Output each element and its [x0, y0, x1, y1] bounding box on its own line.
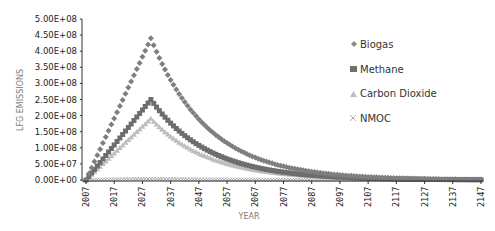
- diamond-marker: [156, 55, 162, 61]
- diamond-marker: [111, 115, 117, 121]
- lfg-emissions-chart: 0.00E+005.00E+071.00E+081.50E+082.00E+08…: [0, 0, 495, 231]
- diamond-marker: [123, 91, 129, 97]
- x-tick-label: 2027: [137, 187, 147, 207]
- diamond-marker: [108, 122, 114, 128]
- diamond-marker: [114, 109, 120, 115]
- diamond-marker: [137, 60, 143, 66]
- diamond-marker: [142, 48, 148, 54]
- legend-item-biogas: Biogas: [351, 39, 393, 50]
- diamond-marker: [151, 42, 157, 48]
- diamond-marker: [173, 86, 179, 92]
- x-tick-label: 2127: [420, 187, 430, 207]
- diamond-marker: [139, 54, 145, 60]
- diamond-marker: [148, 35, 154, 41]
- diamond-marker: [100, 140, 106, 146]
- x-axis-ticks: 2007201720272037204720572067207720872097…: [81, 181, 486, 207]
- diamond-marker: [134, 66, 140, 72]
- diamond-marker-icon: [351, 41, 357, 47]
- x-tick-label: 2047: [194, 187, 204, 207]
- legend-label: Methane: [360, 64, 404, 75]
- diamond-marker: [94, 152, 100, 158]
- diamond-marker: [168, 77, 174, 83]
- y-tick-label: 2.00E+08: [35, 111, 77, 121]
- y-tick-label: 4.50E+08: [35, 30, 77, 40]
- x-tick-label: 2017: [109, 187, 119, 207]
- y-tick-label: 0.00E+00: [35, 175, 77, 185]
- legend-item-nmoc: NMOC: [350, 113, 391, 124]
- y-axis-title: LFG EMISSIONS: [16, 69, 25, 131]
- x-marker-icon: [350, 115, 356, 121]
- square-marker-icon: [350, 66, 357, 72]
- legend: Biogas Methane Carbon Dioxide NMOC: [350, 39, 437, 124]
- x-tick-label: 2057: [222, 187, 232, 207]
- legend-label: NMOC: [360, 113, 391, 124]
- x-tick-label: 2117: [391, 187, 401, 207]
- diamond-marker: [103, 134, 109, 140]
- x-tick-label: 2067: [250, 187, 260, 207]
- diamond-marker: [106, 128, 112, 134]
- x-tick-label: 2007: [81, 187, 91, 207]
- diamond-marker: [165, 72, 171, 78]
- legend-item-methane: Methane: [350, 64, 404, 75]
- x-tick-label: 2037: [166, 187, 176, 207]
- diamond-marker: [128, 78, 134, 84]
- y-tick-label: 3.50E+08: [35, 62, 77, 72]
- y-tick-label: 1.00E+08: [35, 143, 77, 153]
- x-tick-label: 2137: [448, 187, 458, 207]
- y-tick-label: 2.50E+08: [35, 95, 77, 105]
- diamond-marker: [125, 85, 131, 91]
- y-tick-label: 5.00E+08: [35, 14, 77, 24]
- diamond-marker: [97, 146, 103, 152]
- legend-label: Biogas: [360, 39, 393, 50]
- plot-area: [83, 35, 484, 183]
- y-tick-label: 5.00E+07: [35, 159, 77, 169]
- diamond-marker: [162, 67, 168, 73]
- y-tick-label: 1.50E+08: [35, 127, 77, 137]
- x-tick-label: 2097: [335, 187, 345, 207]
- diamond-marker: [145, 41, 151, 47]
- y-axis-ticks: 0.00E+005.00E+071.00E+081.50E+082.00E+08…: [35, 14, 82, 185]
- legend-item-carbon-dioxide: Carbon Dioxide: [350, 88, 437, 99]
- x-tick-label: 2107: [363, 187, 373, 207]
- y-tick-label: 3.00E+08: [35, 78, 77, 88]
- diamond-marker: [120, 97, 126, 103]
- diamond-marker: [117, 103, 123, 109]
- x-tick-label: 2077: [279, 187, 289, 207]
- diamond-marker: [159, 61, 165, 67]
- y-tick-label: 4.00E+08: [35, 46, 77, 56]
- x-tick-label: 2147: [476, 187, 486, 207]
- legend-label: Carbon Dioxide: [360, 88, 437, 99]
- triangle-marker-icon: [350, 91, 357, 97]
- diamond-marker: [170, 82, 176, 88]
- x-axis-title: YEAR: [238, 212, 260, 221]
- x-tick-label: 2087: [307, 187, 317, 207]
- diamond-marker: [131, 72, 137, 78]
- diamond-marker: [154, 49, 160, 55]
